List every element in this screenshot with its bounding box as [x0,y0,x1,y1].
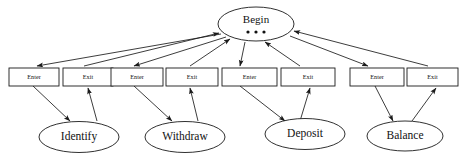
edge-begin-to-enter-identify [37,34,221,66]
port-exit-balance-label: Exit [427,73,438,80]
edge-enter-to-deposit [240,86,285,121]
activity-nodes: Identify Withdraw Deposit Balance [39,119,443,153]
port-enter-withdraw[interactable]: Enter [111,68,163,86]
edges-activity-to-exit [88,88,436,121]
activity-node-withdraw[interactable]: Withdraw [145,122,225,153]
port-enter-withdraw-label: Enter [130,73,143,80]
begin-label: Begin [243,13,270,25]
edge-exit-deposit-to-begin [265,42,300,66]
port-enter-deposit-label: Enter [243,73,256,80]
edges-begin-to-enter [37,34,368,66]
edge-enter-to-withdraw [134,86,172,121]
state-diagram: Begin Enter Exit Enter [0,0,470,163]
port-exit-withdraw[interactable]: Exit [166,68,218,86]
edge-exit-withdraw-to-begin [190,39,230,66]
edge-deposit-to-exit [300,88,310,121]
activity-label-balance: Balance [386,129,423,141]
activity-label-withdraw: Withdraw [162,130,208,142]
port-enter-balance[interactable]: Enter [350,68,404,86]
edge-identify-to-exit [88,88,97,121]
port-exit-identify-label: Exit [83,73,94,80]
activity-node-identify[interactable]: Identify [39,122,119,153]
port-exit-deposit-label: Exit [303,73,314,80]
port-boxes: Enter Exit Enter Exit Enter E [9,68,458,86]
edge-enter-to-balance [375,86,393,121]
port-exit-identify[interactable]: Exit [63,68,113,86]
edge-withdraw-to-exit [190,88,198,121]
begin-dot-2 [254,30,257,33]
edge-balance-to-exit [412,88,436,121]
port-exit-deposit[interactable]: Exit [281,68,335,86]
begin-dot-3 [262,30,265,33]
begin-node[interactable]: Begin [218,7,294,41]
port-exit-withdraw-label: Exit [187,73,198,80]
port-enter-deposit[interactable]: Enter [222,68,277,86]
edge-enter-to-identify [33,86,70,121]
port-exit-balance[interactable]: Exit [407,68,458,86]
port-enter-identify[interactable]: Enter [9,68,59,86]
diagram-canvas: Begin Enter Exit Enter [0,0,470,163]
activity-node-balance[interactable]: Balance [367,121,443,151]
port-enter-identify-label: Enter [27,73,40,80]
activity-node-deposit[interactable]: Deposit [265,119,345,150]
begin-dot-1 [246,30,249,33]
activity-label-identify: Identify [61,130,98,143]
edges-enter-to-activity [33,86,393,121]
edge-exit-balance-to-begin [294,31,428,66]
edge-exit-identify-to-begin [84,33,219,66]
activity-label-deposit: Deposit [287,127,324,140]
port-enter-balance-label: Enter [370,73,383,80]
edge-begin-to-enter-deposit [240,42,245,66]
